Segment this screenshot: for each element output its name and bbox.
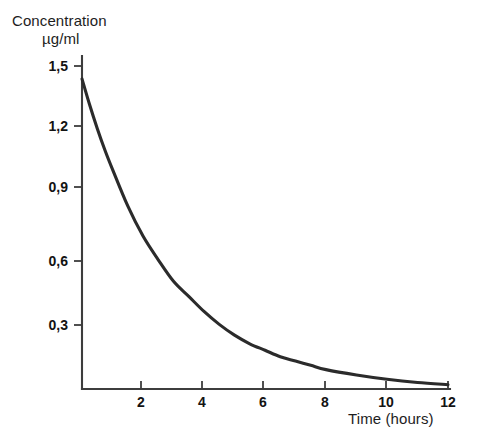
concentration-decay-curve <box>82 79 448 385</box>
plot-area <box>0 0 478 441</box>
concentration-time-chart: Concentration µg/ml Time (hours) 1,5 1,2… <box>0 0 478 441</box>
